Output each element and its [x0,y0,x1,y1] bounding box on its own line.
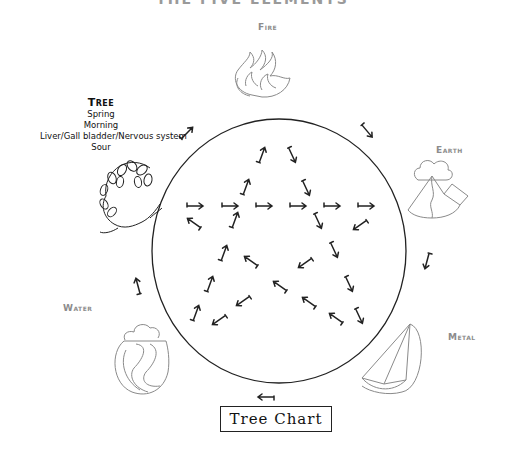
star-arrow-icon [256,146,267,163]
tree-taste: Sour [40,142,162,153]
five-elements-diagram [0,0,505,455]
star-arrow-icon [328,311,345,325]
star-arrow-icon [186,216,203,230]
star-arrow-icon [222,203,238,209]
arrow-layer [133,123,432,400]
star-arrow-icon [312,212,324,229]
tree-element-info: Tree Spring Morning Liver/Gall bladder/N… [40,96,162,153]
star-arrow-icon [353,307,365,324]
element-label-fire: Fire [258,22,277,32]
cycle-arrow-icon [422,252,432,269]
star-arrow-icon [328,241,340,258]
tree-chart-label: Tree Chart [220,406,332,432]
metal-sail-icon [362,324,421,394]
cycle-arrow-icon [258,394,274,400]
element-label-earth: Earth [436,145,463,155]
star-arrow-icon [256,203,272,209]
mountain-icon [408,161,468,218]
cycle-circle [152,119,406,383]
tree-season: Spring [40,109,162,120]
water-wave-icon [115,325,169,394]
element-label-metal: Metal [448,332,476,342]
element-label-water: Water [63,303,92,313]
star-arrow-icon [272,279,289,293]
star-arrow-icon [352,218,369,232]
star-arrow-icon [235,294,252,308]
star-arrow-icon [204,275,215,292]
element-label-tree: Tree [40,96,162,109]
star-arrow-icon [286,146,298,163]
star-arrow-icon [229,211,240,228]
star-arrow-icon [218,244,229,261]
cycle-arrow-icon [360,123,375,139]
star-arrow-icon [243,254,260,268]
star-arrow-icon [343,275,355,292]
star-arrow-icon [300,179,312,196]
star-arrow-icon [358,203,374,209]
tree-organs: Liver/Gall bladder/Nervous system [40,131,162,142]
star-arrow-icon [324,203,340,209]
star-arrow-icon [240,178,251,195]
star-arrow-icon [211,313,228,327]
star-arrow-icon [187,203,203,209]
cycle-arrow-icon [133,277,143,294]
star-arrow-icon [190,304,201,321]
star-arrow-icon [297,256,314,270]
star-arrow-icon [301,295,318,309]
fire-icon [235,50,290,97]
tree-time: Morning [40,120,162,131]
tree-branch-icon [98,159,162,233]
star-arrow-icon [290,203,306,209]
